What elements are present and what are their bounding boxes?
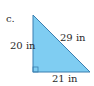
triangle-shape bbox=[33, 15, 90, 72]
vertical-leg-label: 20 in bbox=[10, 41, 36, 51]
hypotenuse-label: 29 in bbox=[60, 33, 86, 43]
horizontal-leg-label: 21 in bbox=[52, 74, 78, 84]
